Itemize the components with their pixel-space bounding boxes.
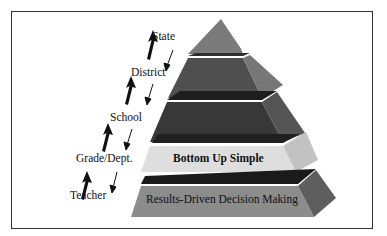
layer-label-bottom-up-simple: Bottom Up Simple — [173, 152, 264, 164]
up-arrow-icon — [102, 123, 113, 152]
level-label-state: State — [152, 30, 175, 42]
layer-label-results-driven: Results-Driven Decision Making — [146, 193, 298, 205]
down-arrow-icon — [145, 84, 153, 105]
level-label-teacher: Teacher — [70, 189, 106, 201]
level-label-school: School — [110, 111, 142, 123]
up-arrow-icon — [125, 76, 136, 105]
down-arrow-icon — [124, 129, 132, 150]
pyramid-layer-4 — [141, 130, 318, 172]
level-label-grade-dept: Grade/Dept. — [76, 152, 133, 164]
pyramid-layer-1 — [188, 19, 243, 54]
down-arrow-icon — [110, 172, 117, 193]
level-label-district: District — [131, 66, 166, 78]
